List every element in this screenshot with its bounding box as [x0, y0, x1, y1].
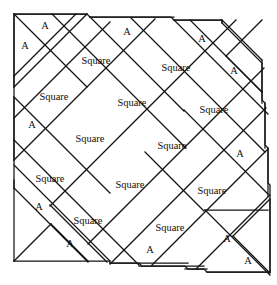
- triangle-label: A: [244, 255, 252, 266]
- triangle-label: A: [230, 65, 238, 76]
- square-label: Square: [198, 185, 227, 196]
- triangle-label: A: [21, 40, 29, 51]
- triangle-label: A: [35, 201, 43, 212]
- triangle-label: A: [198, 33, 206, 44]
- square-label: Square: [200, 104, 229, 115]
- square-tiling-diagram: Square Square Square Square Square Squar…: [0, 0, 277, 285]
- triangle-label: A: [28, 119, 36, 130]
- figure-container: Square Square Square Square Square Squar…: [0, 0, 277, 285]
- canvas-background: [0, 0, 277, 285]
- square-label: Square: [40, 91, 69, 102]
- square-label: Square: [118, 97, 147, 108]
- triangle-label: A: [41, 20, 49, 31]
- triangle-label: A: [146, 244, 154, 255]
- square-label: Square: [76, 133, 105, 144]
- square-label: Square: [162, 62, 191, 73]
- triangle-label: A: [66, 238, 74, 249]
- square-label: Square: [82, 55, 111, 66]
- square-label: Square: [116, 179, 145, 190]
- triangle-label: A: [123, 26, 131, 37]
- triangle-label: A: [223, 233, 231, 244]
- square-label: Square: [74, 215, 103, 226]
- square-label: Square: [36, 173, 65, 184]
- square-label: Square: [156, 222, 185, 233]
- triangle-label: A: [236, 148, 244, 159]
- square-label: Square: [158, 140, 187, 151]
